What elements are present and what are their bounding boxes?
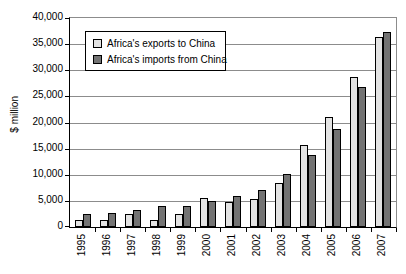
bar-1995-exports xyxy=(75,220,83,227)
y-tick-mark xyxy=(65,149,69,150)
bar-2000-exports xyxy=(200,198,208,227)
y-tick-mark xyxy=(65,175,69,176)
x-tick-mark xyxy=(246,228,247,232)
legend-item-imports: Africa's imports from China xyxy=(93,51,223,67)
x-tick-mark xyxy=(170,228,171,232)
y-tick-label: 10,000 xyxy=(0,168,63,180)
bar-2004-exports xyxy=(300,145,308,227)
legend-swatch-exports-icon xyxy=(93,39,102,48)
y-tick-label: 30,000 xyxy=(0,63,63,75)
bar-1998-exports xyxy=(150,220,158,227)
x-axis-label-1995: 1995 xyxy=(75,234,88,256)
y-tick-label: 5,000 xyxy=(0,194,63,206)
y-tick-mark xyxy=(65,201,69,202)
bar-2002-exports xyxy=(250,199,258,227)
y-tick-mark xyxy=(65,44,69,45)
bar-2003-exports xyxy=(275,183,283,227)
y-tick-label: 20,000 xyxy=(0,116,63,128)
bar-1997-imports xyxy=(133,210,141,227)
y-tick-mark xyxy=(65,226,69,227)
x-tick-mark xyxy=(371,228,372,232)
bar-1999-exports xyxy=(175,214,183,227)
bar-1997-exports xyxy=(125,214,133,227)
bar-2007-imports xyxy=(383,32,391,227)
gridline-15000 xyxy=(70,149,396,150)
x-tick-mark xyxy=(145,228,146,232)
y-tick-label: 0 xyxy=(0,220,63,232)
x-axis-label-2007: 2007 xyxy=(375,234,388,256)
legend-label-exports: Africa's exports to China xyxy=(107,38,215,49)
x-axis-label-1999: 1999 xyxy=(175,234,188,256)
bar-chart: $ million Africa's exports to China Afri… xyxy=(0,0,406,274)
bar-2005-exports xyxy=(325,117,333,227)
x-axis-label-2006: 2006 xyxy=(350,234,363,256)
bar-1999-imports xyxy=(183,206,191,227)
bar-1996-imports xyxy=(108,213,116,227)
x-tick-mark xyxy=(220,228,221,232)
x-axis-label-1997: 1997 xyxy=(125,234,138,256)
y-tick-mark xyxy=(65,96,69,97)
bar-1996-exports xyxy=(100,220,108,227)
bar-2002-imports xyxy=(258,190,266,227)
x-tick-mark xyxy=(95,228,96,232)
y-tick-mark xyxy=(65,123,69,124)
x-axis-label-2004: 2004 xyxy=(300,234,313,256)
gridline-10000 xyxy=(70,175,396,176)
bar-2003-imports xyxy=(283,174,291,227)
bar-2007-exports xyxy=(375,37,383,227)
y-tick-label: 35,000 xyxy=(0,37,63,49)
x-axis-label-2003: 2003 xyxy=(275,234,288,256)
bar-2001-imports xyxy=(233,196,241,227)
bar-2006-exports xyxy=(350,77,358,227)
x-tick-mark xyxy=(321,228,322,232)
gridline-25000 xyxy=(70,96,396,97)
bar-2004-imports xyxy=(308,155,316,227)
x-axis-label-2000: 2000 xyxy=(200,234,213,256)
x-axis-label-2005: 2005 xyxy=(325,234,338,256)
bar-2001-exports xyxy=(225,202,233,227)
x-axis-label-2002: 2002 xyxy=(250,234,263,256)
bar-1995-imports xyxy=(83,214,91,227)
legend-swatch-imports-icon xyxy=(93,55,102,64)
x-axis-label-1998: 1998 xyxy=(150,234,163,256)
x-tick-mark xyxy=(296,228,297,232)
y-tick-mark xyxy=(65,70,69,71)
x-tick-mark xyxy=(396,228,397,232)
x-tick-mark xyxy=(346,228,347,232)
x-tick-mark xyxy=(195,228,196,232)
bar-2000-imports xyxy=(208,201,216,227)
bar-2005-imports xyxy=(333,129,341,227)
x-tick-mark xyxy=(271,228,272,232)
x-axis-label-2001: 2001 xyxy=(225,234,238,256)
y-tick-mark xyxy=(65,18,69,19)
gridline-20000 xyxy=(70,123,396,124)
bar-2006-imports xyxy=(358,87,366,227)
x-tick-mark xyxy=(120,228,121,232)
bar-1998-imports xyxy=(158,206,166,227)
legend: Africa's exports to China Africa's impor… xyxy=(85,31,226,71)
y-tick-label: 25,000 xyxy=(0,89,63,101)
legend-item-exports: Africa's exports to China xyxy=(93,35,223,51)
y-tick-label: 40,000 xyxy=(0,11,63,23)
x-axis-label-1996: 1996 xyxy=(100,234,113,256)
y-tick-label: 15,000 xyxy=(0,142,63,154)
legend-label-imports: Africa's imports from China xyxy=(107,54,227,65)
